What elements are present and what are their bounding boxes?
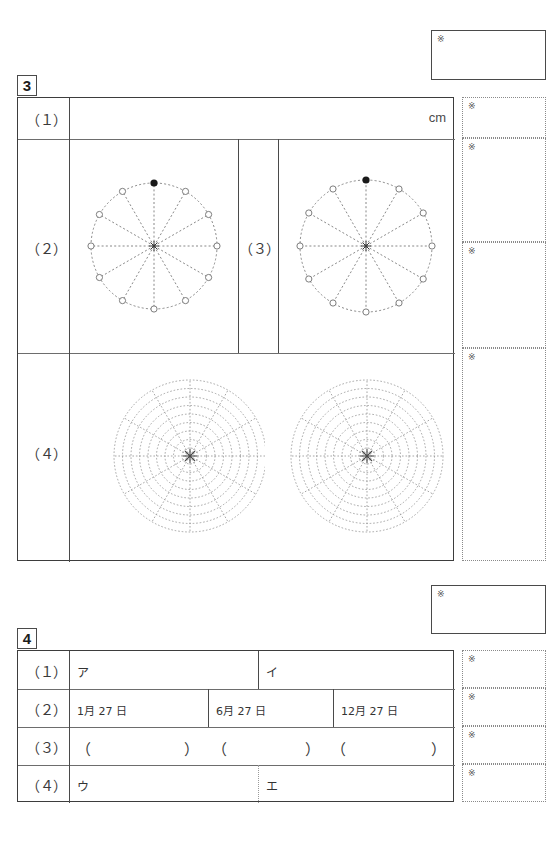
kome-icon: ※: [468, 247, 476, 256]
score-cell-3-2[interactable]: ※: [462, 138, 546, 242]
score-cell-4-3[interactable]: ※: [462, 726, 546, 764]
divider-4-2-cell2-cell3: [333, 689, 334, 727]
score-cell-4-4[interactable]: ※: [462, 764, 546, 802]
kome-icon: ※: [437, 35, 445, 44]
answer-value-4-2-a[interactable]: 1月 27 日: [77, 702, 202, 718]
divider-4-2-cell1-cell2: [208, 689, 209, 727]
kome-icon: ※: [468, 731, 476, 740]
kome-icon: ※: [468, 769, 476, 778]
polar-grid-diagram-a: [70, 354, 265, 561]
answer-paren-open-4-3-c[interactable]: （: [331, 738, 346, 759]
question-label-3-4: （４）: [24, 443, 69, 463]
divider-4-row1-row2: [18, 689, 455, 690]
question-label-4-3: （３）: [24, 737, 69, 757]
twelve-point-circle-diagram-b: [279, 140, 454, 353]
answer-paren-close-4-3-b[interactable]: ）: [305, 738, 320, 759]
answer-diagram-3-3[interactable]: [279, 140, 454, 353]
answer-polar-grid-a[interactable]: [70, 354, 265, 561]
answer-paren-open-4-3-a[interactable]: （: [76, 738, 91, 759]
kome-icon: ※: [468, 693, 476, 702]
answer-paren-close-4-3-c[interactable]: ）: [431, 738, 446, 759]
section-3-answer-table: （１） cm （２） （３）: [17, 97, 454, 561]
answer-value-4-4-a[interactable]: ウ: [77, 777, 252, 794]
polar-grid-diagram-b: [270, 354, 454, 561]
score-cell-3-3[interactable]: ※: [462, 242, 546, 348]
question-label-4-2: （２）: [24, 699, 69, 719]
answer-paren-close-4-3-a[interactable]: ）: [184, 738, 199, 759]
divider-4-4-cells: [258, 765, 259, 803]
divider-4-row2-row3: [18, 727, 455, 728]
kome-icon: ※: [468, 143, 476, 152]
question-label-4-1: （１）: [24, 661, 69, 681]
section-4-answer-table: （１） ア イ （２） 1月 27 日 6月 27 日 12月 27 日 （３）…: [17, 650, 454, 802]
answer-value-4-2-b[interactable]: 6月 27 日: [216, 702, 326, 718]
answer-polar-grid-b[interactable]: [270, 354, 454, 561]
answer-paren-open-4-3-b[interactable]: （: [212, 738, 227, 759]
kome-icon: ※: [437, 590, 445, 599]
kome-icon: ※: [468, 353, 476, 362]
answer-value-4-4-b[interactable]: エ: [266, 777, 446, 794]
unit-label-cm: cm: [398, 110, 446, 125]
question-label-4-4: （４）: [24, 775, 69, 795]
section-4-total-score-box[interactable]: ※: [431, 585, 546, 634]
question-label-3-2: （２）: [24, 238, 69, 258]
score-cell-3-1[interactable]: ※: [462, 97, 546, 138]
twelve-point-circle-diagram-a: [70, 140, 238, 353]
filled-top-point-a: [150, 179, 157, 186]
kome-icon: ※: [468, 102, 476, 111]
divider-4-1-cells: [258, 651, 259, 689]
answer-value-4-2-c[interactable]: 12月 27 日: [341, 702, 451, 718]
section-3-total-score-box[interactable]: ※: [431, 30, 546, 80]
answer-value-4-1-b[interactable]: イ: [266, 663, 446, 680]
question-label-3-1: （１）: [24, 109, 69, 129]
section-number-3: 3: [17, 75, 37, 96]
question-label-3-3: （３）: [239, 238, 278, 258]
kome-icon: ※: [468, 655, 476, 664]
divider-4-label-column: [69, 651, 70, 803]
filled-top-point-b: [362, 176, 369, 183]
section-number-4: 4: [17, 628, 37, 649]
answer-field-3-1[interactable]: [70, 99, 454, 139]
answer-diagram-3-2[interactable]: [70, 140, 238, 353]
score-cell-4-1[interactable]: ※: [462, 650, 546, 688]
divider-4-row3-row4: [18, 765, 455, 766]
score-cell-4-2[interactable]: ※: [462, 688, 546, 726]
answer-value-4-1-a[interactable]: ア: [77, 663, 252, 680]
answer-sheet-page: ※ 3 （１） cm （２） （３）: [0, 0, 551, 847]
score-cell-3-4[interactable]: ※: [462, 348, 546, 561]
